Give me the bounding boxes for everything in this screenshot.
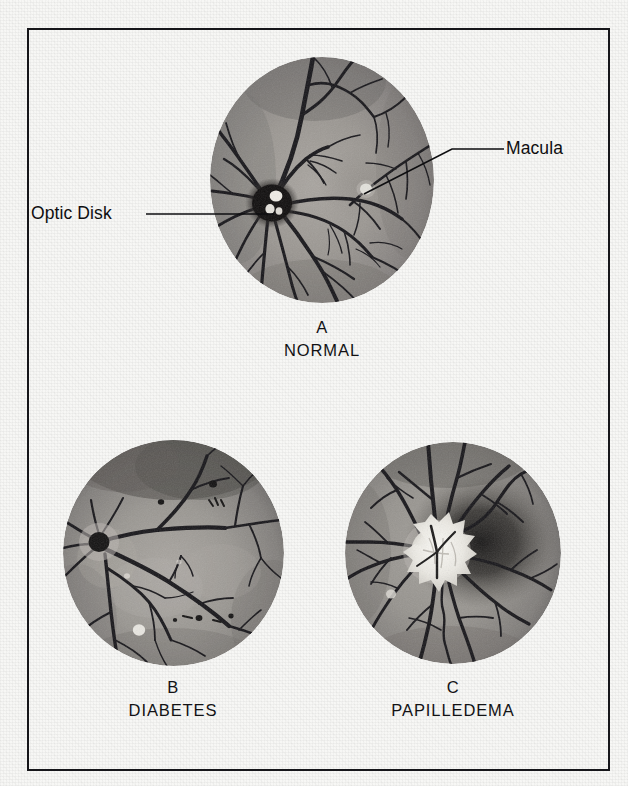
annotation-macula-label: Macula bbox=[506, 138, 563, 159]
panel-letter-papilledema: C bbox=[373, 676, 533, 699]
panel-name-normal: NORMAL bbox=[242, 339, 402, 362]
fundus-diabetes-svg bbox=[63, 440, 284, 666]
fundus-image-papilledema bbox=[345, 442, 561, 664]
panel-letter-normal: A bbox=[242, 316, 402, 339]
fundus-papilledema-svg bbox=[345, 442, 561, 664]
caption-diabetes: B DIABETES bbox=[93, 676, 253, 722]
caption-papilledema: C PAPILLEDEMA bbox=[373, 676, 533, 722]
panel-name-diabetes: DIABETES bbox=[93, 699, 253, 722]
annotation-optic-disk-label: Optic Disk bbox=[31, 203, 112, 224]
fundus-image-diabetes bbox=[63, 440, 284, 666]
fundus-image-normal bbox=[210, 57, 434, 303]
figure-page: A NORMAL Optic Disk Macula bbox=[0, 0, 628, 786]
fundus-normal-svg bbox=[210, 57, 434, 303]
panel-letter-diabetes: B bbox=[93, 676, 253, 699]
panel-name-papilledema: PAPILLEDEMA bbox=[373, 699, 533, 722]
caption-normal: A NORMAL bbox=[242, 316, 402, 362]
